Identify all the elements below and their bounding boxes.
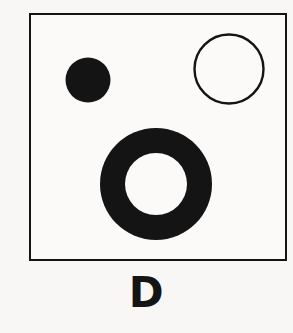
figure-panel: D <box>0 0 293 333</box>
panel-border <box>29 13 287 261</box>
figure-caption-label: D <box>0 271 293 315</box>
